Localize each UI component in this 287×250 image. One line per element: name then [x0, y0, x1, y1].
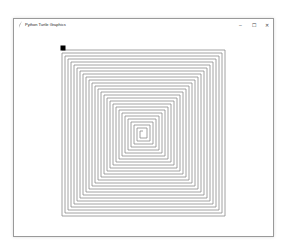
spiral-path — [62, 50, 225, 216]
spiral-drawing — [0, 0, 287, 250]
turtle-cursor-icon — [61, 46, 66, 51]
